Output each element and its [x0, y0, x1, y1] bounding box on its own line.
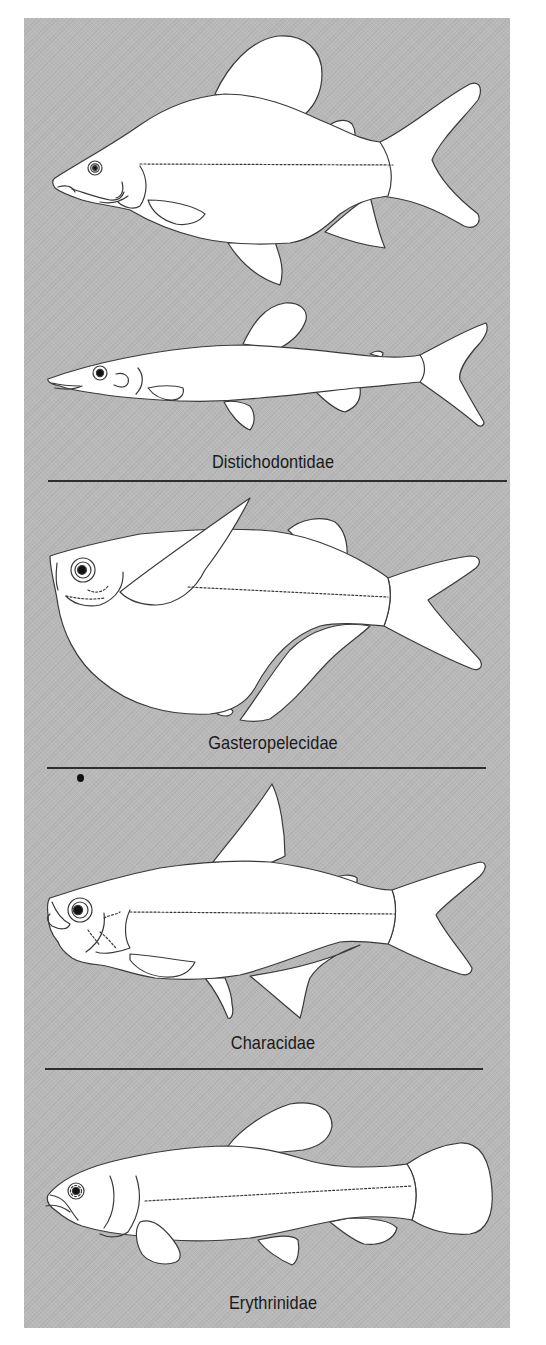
family-label-gasteropelecidae: Gasteropelecidae — [38, 732, 508, 754]
fish-erythrinidae — [46, 1103, 492, 1265]
family-label-erythrinidae: Erythrinidae — [38, 1292, 508, 1314]
fish-distichodontidae-slender — [48, 303, 488, 430]
fish-distichodontidae-deep-bodied — [53, 36, 481, 285]
fish-characidae — [48, 784, 486, 1018]
family-label-distichodontidae: Distichodontidae — [38, 451, 508, 473]
fish-gasteropelecidae — [50, 498, 481, 721]
scan-speck — [77, 774, 84, 782]
family-label-characidae: Characidae — [38, 1032, 508, 1054]
panel-divider — [47, 767, 486, 769]
panel-divider — [48, 480, 507, 482]
panel-divider — [45, 1068, 483, 1070]
fish-illustrations — [0, 0, 546, 1345]
